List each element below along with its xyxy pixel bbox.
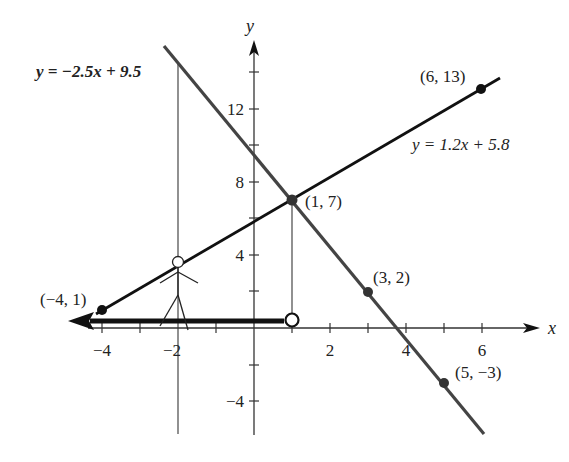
point-3-2 xyxy=(363,287,373,297)
y-axis-label: y xyxy=(244,16,254,36)
x-tick-label: 6 xyxy=(478,341,487,360)
x-tick-label: −4 xyxy=(93,341,112,360)
point-5-neg3 xyxy=(439,378,449,388)
y-tick-label: 12 xyxy=(227,100,244,119)
point-label: (5, −3) xyxy=(455,363,501,382)
y-tick-label: −4 xyxy=(226,392,245,411)
point-label: (1, 7) xyxy=(305,192,342,211)
open-endpoint-circle xyxy=(286,314,299,327)
point-neg4-1 xyxy=(97,305,107,315)
line-y-neg2.5x-plus-9.5 xyxy=(164,46,484,434)
x-tick-label: −2 xyxy=(163,341,181,360)
point-label: (6, 13) xyxy=(420,67,465,86)
line-y-1.2x-plus-5.8 xyxy=(96,78,500,314)
x-axis-label: x xyxy=(547,318,556,338)
point-6-13 xyxy=(476,84,486,94)
point-1-7 xyxy=(287,195,298,206)
x-axis xyxy=(88,323,540,333)
point-label: (−4, 1) xyxy=(40,290,86,309)
y-tick-label: 4 xyxy=(236,246,245,265)
x-tick-label: 2 xyxy=(326,341,335,360)
y-axis xyxy=(249,40,259,435)
y-tick-label: 8 xyxy=(236,173,245,192)
point-label: (3, 2) xyxy=(373,268,410,287)
equation-label-line1: y = 1.2x + 5.8 xyxy=(410,135,510,154)
chart: x −4 −2 2 4 6 y 12 8 4 −4 xyxy=(0,0,569,462)
equation-label-line2: y = −2.5x + 9.5 xyxy=(34,62,142,81)
